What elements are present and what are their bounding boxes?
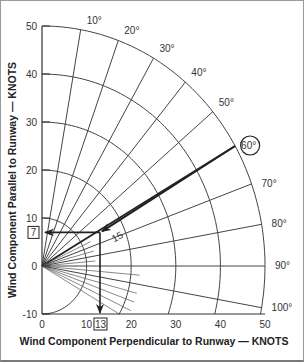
x-axis-title: Wind Component Perpendicular to Runway —… xyxy=(20,335,289,347)
chart-grid xyxy=(42,26,265,314)
y-tick-label: 30 xyxy=(26,117,38,128)
angle-label: 10° xyxy=(87,15,102,26)
x-tick-label: 30 xyxy=(170,319,182,330)
headwind-value: 7 xyxy=(31,227,37,238)
speed-arc-40 xyxy=(42,74,220,314)
angle-label: 80° xyxy=(272,218,287,229)
x-tick-label: 20 xyxy=(126,319,138,330)
x-tick-label: 10 xyxy=(81,319,93,330)
fan-line xyxy=(42,266,137,293)
angle-label: 30° xyxy=(160,43,175,54)
chart-labels: 50403020100-100102030405010°20°30°40°50°… xyxy=(6,15,292,347)
x-tick-label: 0 xyxy=(39,319,45,330)
angle-label: 50° xyxy=(219,97,234,108)
wind-speed-label: 15 xyxy=(110,229,125,244)
x-tick-label: 40 xyxy=(215,319,227,330)
crosswind-value: 13 xyxy=(95,319,107,330)
angle-label: 100° xyxy=(272,302,293,313)
y-tick-label: 20 xyxy=(26,165,38,176)
angle-label: 60° xyxy=(241,140,256,151)
speed-arc-50 xyxy=(42,26,265,314)
fan-line xyxy=(42,266,140,275)
angle-label: 20° xyxy=(124,25,139,36)
angle-label: 40° xyxy=(191,67,206,78)
y-tick-label: -10 xyxy=(23,309,38,320)
y-tick-label: 0 xyxy=(31,261,37,272)
angle-label: 90° xyxy=(275,260,290,271)
y-tick-label: 50 xyxy=(26,21,38,32)
y-tick-label: 10 xyxy=(26,213,38,224)
angle-label: 70° xyxy=(262,178,277,189)
y-tick-label: 40 xyxy=(26,69,38,80)
fan-line xyxy=(42,266,134,302)
y-axis-title: Wind Component Parallel to Runway — KNOT… xyxy=(6,62,18,298)
x-tick-label: 50 xyxy=(259,319,271,330)
